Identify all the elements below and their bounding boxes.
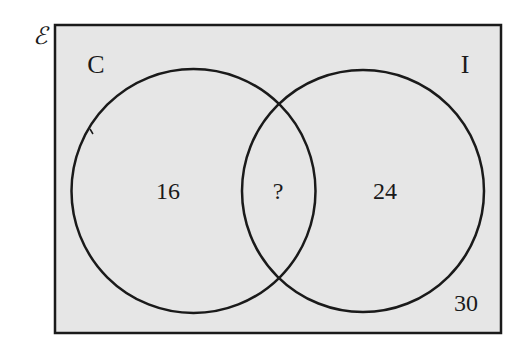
- set-c-only-value: 16: [156, 178, 180, 204]
- set-c-label: C: [87, 50, 104, 79]
- set-i-label: I: [461, 50, 470, 79]
- outside-value: 30: [454, 290, 478, 316]
- intersection-value: ?: [273, 178, 284, 204]
- set-i-only-value: 24: [373, 178, 397, 204]
- universal-set-symbol: ℰ: [33, 22, 50, 50]
- venn-diagram: ℰ C I 16 ? 24 30: [0, 0, 522, 344]
